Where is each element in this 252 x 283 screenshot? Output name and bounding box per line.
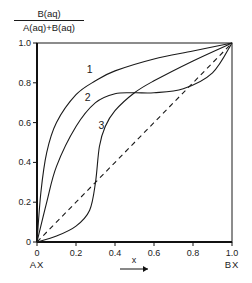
x-axis-label: x: [132, 255, 137, 265]
curve-label-3: 3: [98, 119, 104, 131]
y-tick-label: 1.0: [18, 38, 31, 48]
y-tick-label: 0.2: [18, 197, 31, 207]
chart-canvas: 00.20.40.60.81.000.20.40.60.81.0AXBXx 12…: [0, 0, 252, 283]
y-tick-label: 0.6: [18, 118, 31, 128]
x-end-label-left: AX: [30, 259, 45, 270]
series-ideal-line: [37, 43, 232, 242]
x-end-label-right: BX: [225, 259, 240, 270]
curve-label-1: 1: [87, 63, 93, 75]
x-tick-label: 0.6: [148, 248, 161, 258]
x-tick-label: 0: [34, 248, 39, 258]
y-tick-label: 0: [26, 237, 31, 247]
x-tick-label: 0.8: [187, 248, 200, 258]
curve-label-2: 2: [85, 91, 91, 103]
labels-layer: 123: [85, 63, 105, 131]
x-tick-label: 0.2: [70, 248, 83, 258]
y-tick-label: 0.8: [18, 78, 31, 88]
x-tick-label: 0.4: [109, 248, 122, 258]
x-tick-label: 1.0: [226, 248, 239, 258]
y-tick-label: 0.4: [18, 157, 31, 167]
axes: 00.20.40.60.81.000.20.40.60.81.0AXBXx: [18, 38, 239, 272]
x-arrow-head-icon: [143, 266, 148, 272]
series-layer: [37, 43, 232, 242]
